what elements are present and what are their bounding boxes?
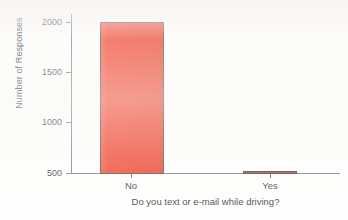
bar-no [100,22,164,174]
x-tick-label-no: No [96,180,166,191]
x-tick-mark-yes [270,174,271,178]
y-tick-mark-2000 [66,22,71,23]
y-tick-mark-1000 [66,122,71,123]
x-tick-mark-no [131,174,132,178]
bar-chart: Number of Responses 2000 1500 1000 500 N… [0,0,348,220]
y-tick-label-1000: 1000 [42,117,62,127]
y-tick-label-2000: 2000 [42,17,62,27]
y-tick-label-1500: 1500 [42,67,62,77]
y-tick-label-500: 500 [47,168,62,178]
x-tick-label-yes: Yes [235,180,305,191]
x-axis-title: Do you text or e-mail while driving? [71,196,340,207]
y-tick-mark-1500 [66,72,71,73]
y-tick-mark-500 [66,173,71,174]
y-axis-line [71,14,72,174]
y-axis-title: Number of Responses [14,3,24,123]
